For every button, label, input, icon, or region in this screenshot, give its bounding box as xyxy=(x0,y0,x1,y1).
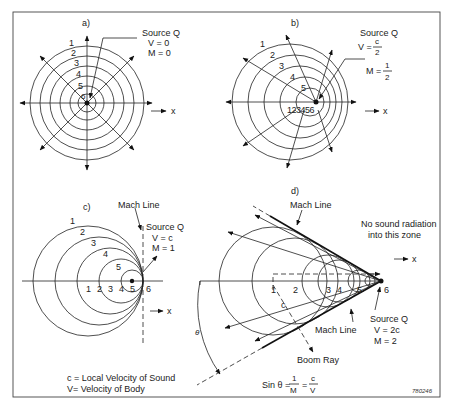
source-pointer xyxy=(375,287,380,310)
source-pointer xyxy=(319,59,365,99)
velocity-label: V = c xyxy=(152,233,173,243)
position-number: 4 xyxy=(337,285,342,295)
mach-line-label-bottom: Mach Line xyxy=(315,325,357,335)
x-axis-label: x xyxy=(171,106,176,116)
mach-line-pointer xyxy=(135,208,141,230)
velocity-denominator: 2 xyxy=(375,48,380,57)
boom-ray-label: Boom Ray xyxy=(297,355,340,365)
velocity-label: V = xyxy=(358,42,372,52)
wave-number: 2 xyxy=(71,48,76,58)
wave-number: 3 xyxy=(279,61,284,71)
source-title: Source Q xyxy=(146,222,184,232)
wave-number: 5 xyxy=(116,262,121,272)
position-number: 4 xyxy=(119,284,124,294)
position-number: 5 xyxy=(357,285,362,295)
formula-prefix: Sin θ = xyxy=(262,380,290,390)
x-axis-label: x xyxy=(383,106,388,116)
source-q-dot xyxy=(85,101,90,106)
position-number: 6 xyxy=(146,284,151,294)
no-radiation-label: No sound radiation xyxy=(361,219,437,229)
x-axis-label: x xyxy=(167,306,172,316)
mach-line-extension-top xyxy=(253,206,270,216)
figure-id: 780246 xyxy=(412,388,433,394)
position-numbers: 123456 xyxy=(287,105,315,115)
wave-number: 6 xyxy=(81,92,86,101)
wave-number: 1 xyxy=(69,38,74,48)
velocity-label: V = 2c xyxy=(374,325,400,335)
mach-denominator: 2 xyxy=(385,73,390,82)
wave-number: 5 xyxy=(78,81,83,91)
mach-label: M = 2 xyxy=(374,336,397,346)
x-axis-label: x xyxy=(412,254,417,264)
position-number: 5 xyxy=(130,284,135,294)
position-number: 1 xyxy=(86,284,91,294)
source-title: Source Q xyxy=(370,314,408,324)
panel-d-label: d) xyxy=(291,186,299,196)
mach-label: M = xyxy=(366,66,381,76)
position-number: 6 xyxy=(384,285,389,295)
panel-b: b) 1 2 3 4 5 123456 Source Q V = c xyxy=(226,18,398,168)
source-pointer xyxy=(143,256,157,272)
panel-b-label: b) xyxy=(291,18,299,28)
sound-wave-diagram: a) 1 2 3 4 5 6 Source Q V = 0 M = 0 xyxy=(0,0,451,412)
velocity-numerator: c xyxy=(375,37,379,46)
wave-number: 4 xyxy=(290,72,295,82)
mach-line-label: Mach Line xyxy=(118,200,160,210)
source-q-dot xyxy=(130,279,134,283)
legend-c: c = Local Velocity of Sound xyxy=(67,373,175,383)
panel-d-rays xyxy=(225,215,381,341)
mach-line-bottom xyxy=(262,281,381,348)
mach-label: M = 1 xyxy=(152,243,175,253)
mach-line-label-top: Mach Line xyxy=(290,200,332,210)
mach-line-bottom-pointer xyxy=(351,309,353,322)
source-q-dot xyxy=(314,100,319,105)
position-number: 2 xyxy=(97,284,102,294)
legend-v: V= Velocity of Body xyxy=(67,384,145,394)
wave-number: 2 xyxy=(80,227,85,237)
source-title: Source Q xyxy=(142,28,180,38)
position-number: 1 xyxy=(271,285,276,295)
theta-label: θ xyxy=(195,328,200,337)
panel-c: c) Mach Line Source Q V = c M = 1 1 2 3 … xyxy=(22,200,184,394)
mach-line-extension-bottom xyxy=(197,348,262,385)
position-number: 2 xyxy=(293,285,298,295)
formula-numerator: c xyxy=(311,374,315,383)
mach-line-top-pointer xyxy=(297,210,302,225)
theta-arc xyxy=(198,281,220,374)
source-title: Source Q xyxy=(360,28,398,38)
no-radiation-label: into this zone xyxy=(368,230,421,240)
formula-denominator: M xyxy=(290,386,297,395)
wave-number: 3 xyxy=(74,58,79,68)
position-number: 3 xyxy=(108,284,113,294)
panel-a: a) 1 2 3 4 5 6 Source Q V = 0 M = 0 xyxy=(20,18,180,170)
wave-number: 2 xyxy=(270,50,275,60)
wave-number: 1 xyxy=(70,216,75,226)
wave-number: 4 xyxy=(103,249,108,259)
mach-label: M = 0 xyxy=(148,48,171,58)
velocity-label: V = 0 xyxy=(148,38,169,48)
position-number: 3 xyxy=(326,285,331,295)
mach-numerator: 1 xyxy=(385,61,390,70)
formula-equals: = xyxy=(302,380,307,390)
wave-number: 3 xyxy=(91,238,96,248)
wave-number: 5 xyxy=(301,83,306,93)
wave-number: 1 xyxy=(260,39,265,49)
formula-denominator: V xyxy=(310,386,316,395)
panel-d: d) xyxy=(195,186,437,395)
wave-number: 4 xyxy=(76,69,81,79)
c-label: c xyxy=(281,300,286,310)
source-q-dot xyxy=(379,279,384,284)
formula-numerator: 1 xyxy=(292,374,297,383)
panel-a-label: a) xyxy=(82,18,90,28)
panel-c-label: c) xyxy=(83,202,91,212)
boom-ray xyxy=(273,285,313,352)
